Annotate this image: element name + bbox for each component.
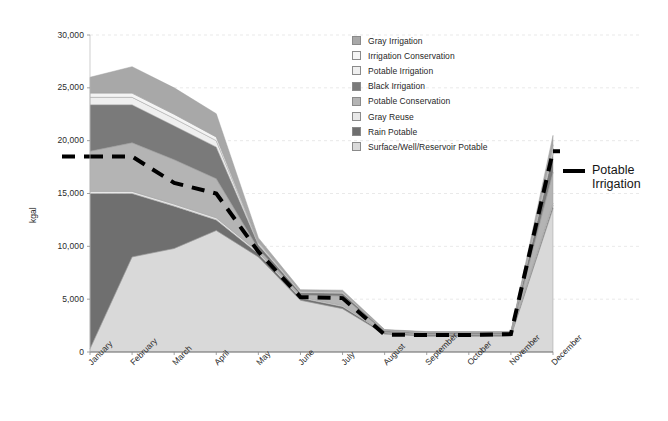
legend-item-label: Potable Conservation bbox=[368, 96, 450, 106]
legend-item-label: Black Irrigation bbox=[368, 81, 425, 91]
y-axis-tick-label: 0 bbox=[38, 347, 84, 357]
chart-container: kgal 30,00025,00020,00015,00010,0005,000… bbox=[0, 0, 668, 421]
legend-item[interactable]: Gray Reuse bbox=[352, 109, 534, 124]
y-axis-title: kgal bbox=[28, 208, 38, 224]
legend-item[interactable]: Black Irrigation bbox=[352, 79, 534, 94]
y-axis-tick-label: 30,000 bbox=[38, 30, 84, 40]
legend-color-swatch bbox=[352, 66, 361, 75]
legend-color-swatch bbox=[352, 127, 361, 136]
legend-item[interactable]: Potable Irrigation bbox=[352, 63, 534, 78]
legend-color-swatch bbox=[352, 142, 361, 151]
legend-item-label: Surface/Well/Reservoir Potable bbox=[368, 142, 487, 152]
legend-item[interactable]: Gray Irrigation bbox=[352, 33, 534, 48]
legend-color-swatch bbox=[352, 51, 361, 60]
dashed-line-marker-icon bbox=[563, 169, 585, 173]
series-annotation: Potable Irrigation bbox=[563, 163, 641, 191]
y-axis-tick-label: 10,000 bbox=[38, 241, 84, 251]
y-axis-tick-label: 25,000 bbox=[38, 82, 84, 92]
legend-color-swatch bbox=[352, 112, 361, 121]
chart-legend: Gray IrrigationIrrigation ConservationPo… bbox=[352, 33, 534, 155]
legend-item[interactable]: Irrigation Conservation bbox=[352, 48, 534, 63]
y-axis-tick-label: 5,000 bbox=[38, 294, 84, 304]
legend-item[interactable]: Potable Conservation bbox=[352, 94, 534, 109]
legend-color-swatch bbox=[352, 97, 361, 106]
annotation-label: Potable Irrigation bbox=[592, 163, 641, 191]
legend-item-label: Potable Irrigation bbox=[368, 66, 433, 76]
legend-color-swatch bbox=[352, 82, 361, 91]
legend-item-label: Irrigation Conservation bbox=[368, 51, 455, 61]
legend-item[interactable]: Surface/Well/Reservoir Potable bbox=[352, 139, 534, 154]
legend-item-label: Rain Potable bbox=[368, 127, 417, 137]
legend-item[interactable]: Rain Potable bbox=[352, 124, 534, 139]
legend-item-label: Gray Reuse bbox=[368, 112, 414, 122]
y-axis-tick-label: 20,000 bbox=[38, 135, 84, 145]
y-axis-tick-label: 15,000 bbox=[38, 188, 84, 198]
legend-color-swatch bbox=[352, 36, 361, 45]
legend-item-label: Gray Irrigation bbox=[368, 36, 423, 46]
